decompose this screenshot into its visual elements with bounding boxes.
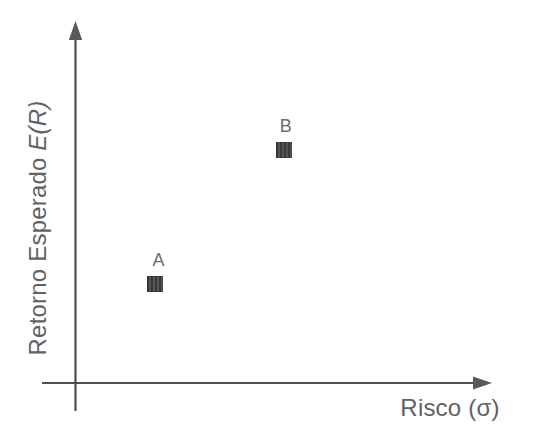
axes (0, 0, 540, 441)
point-marker-square (276, 142, 292, 158)
x-axis-arrowhead-icon (473, 376, 492, 389)
y-axis-label-text: Retorno Esperado (24, 157, 51, 355)
y-axis-arrowhead-icon (69, 21, 82, 40)
point-marker-square (147, 276, 163, 292)
risk-return-diagram: Retorno EsperadoE(R) Risco (σ) AB (0, 0, 540, 441)
point-label: B (280, 115, 292, 136)
y-axis-label: Retorno EsperadoE(R) (24, 101, 52, 356)
y-axis-label-math: E(R) (24, 101, 51, 151)
point-label: A (153, 249, 165, 270)
x-axis-label: Risco (σ) (400, 394, 499, 422)
